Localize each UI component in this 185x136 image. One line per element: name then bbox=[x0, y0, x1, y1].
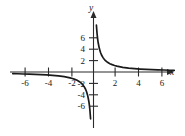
x-tick-label-6: 6 bbox=[160, 78, 165, 88]
x-axis-label: x bbox=[169, 67, 175, 77]
x-tick-label-4: 4 bbox=[136, 78, 141, 88]
graph-figure: -6 -4 -2 2 4 6 6 4 2 -2 -4 -6 x y bbox=[0, 0, 185, 136]
x-tick-label--6: -6 bbox=[21, 78, 29, 88]
y-tick-label--4: -4 bbox=[78, 90, 86, 100]
y-tick-label--2: -2 bbox=[78, 79, 86, 89]
coordinate-plane-svg: -6 -4 -2 2 4 6 6 4 2 -2 -4 -6 x y bbox=[0, 0, 185, 136]
y-tick-label-4: 4 bbox=[81, 44, 86, 54]
y-axis-label: y bbox=[88, 3, 94, 13]
x-tick-label-2: 2 bbox=[113, 78, 118, 88]
y-tick-label-6: 6 bbox=[81, 33, 86, 43]
x-tick-label--4: -4 bbox=[45, 78, 53, 88]
hyperbola-branch-right bbox=[96, 25, 174, 70]
y-tick-label--6: -6 bbox=[78, 101, 86, 111]
x-tick-label--2: -2 bbox=[68, 78, 76, 88]
y-tick-label-2: 2 bbox=[81, 56, 86, 66]
